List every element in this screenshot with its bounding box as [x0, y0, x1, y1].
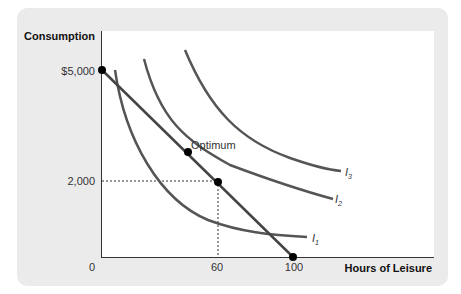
- chart-svg: Consumption $5,000 2,000 0 60 100 Hours …: [0, 0, 461, 294]
- y-tick-5000: $5,000: [61, 65, 95, 77]
- x-axis-label: Hours of Leisure: [345, 262, 432, 274]
- y-tick-2000: 2,000: [67, 175, 95, 187]
- point-intercept-x: [289, 253, 297, 261]
- y-axis-label: Consumption: [24, 30, 95, 42]
- x-tick-60: 60: [211, 261, 223, 273]
- x-tick-0: 0: [89, 261, 95, 273]
- point-60-2000: [214, 178, 222, 186]
- budget-line: [102, 70, 293, 257]
- curve-label-i2: I2: [335, 193, 342, 207]
- curve-label-i3: I3: [345, 166, 352, 180]
- curve-label-i1: I1: [312, 232, 319, 246]
- optimum-label: Optimum: [191, 139, 236, 151]
- point-intercept-y: [98, 66, 106, 74]
- x-tick-100: 100: [285, 261, 303, 273]
